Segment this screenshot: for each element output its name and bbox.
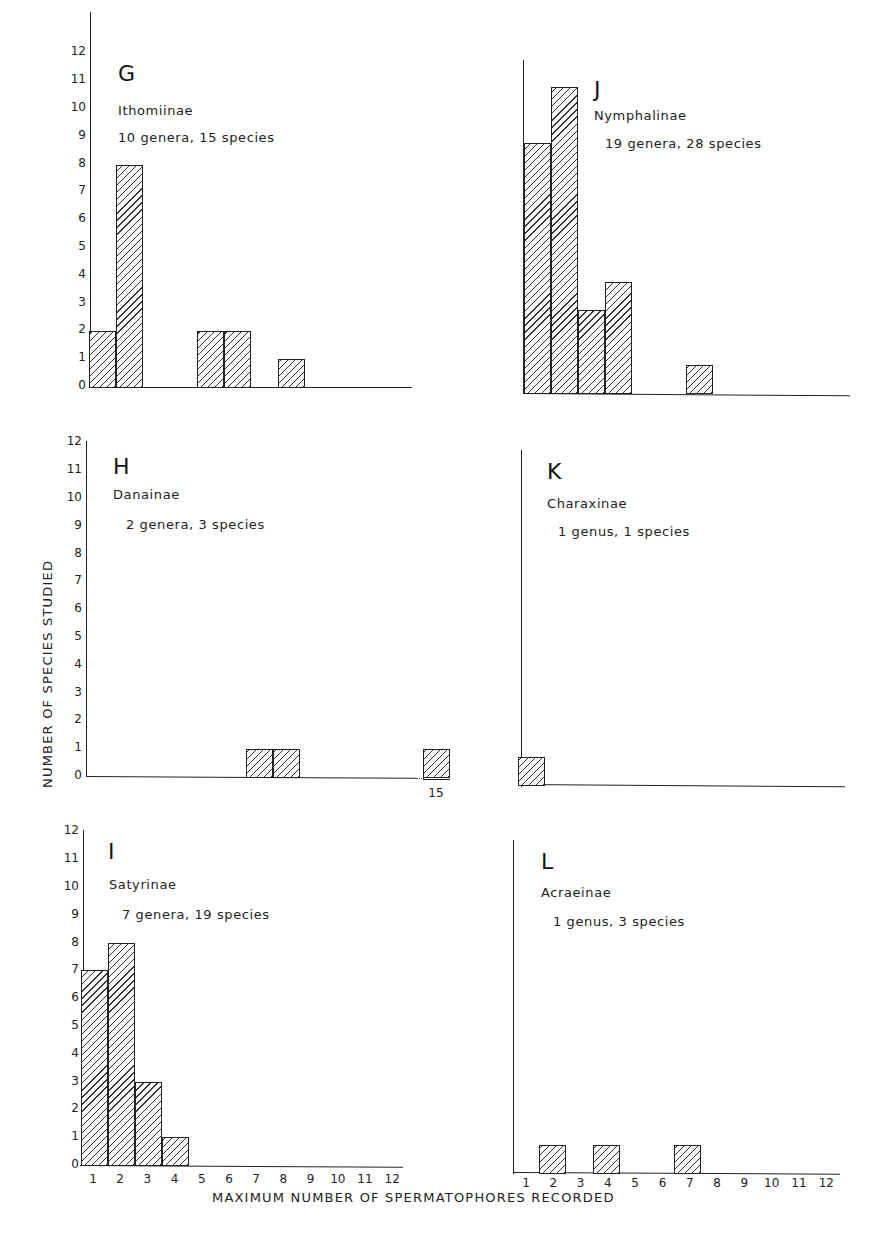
y-tick: 0 [64,378,86,392]
y-tick: 7 [60,573,82,587]
x-tick: 1 [83,1172,103,1186]
panel-h-x-axis-extension [423,779,450,780]
y-tick: 12 [64,44,86,58]
histogram-bar [162,1137,189,1166]
x-tick: 7 [680,1176,700,1190]
y-tick: 4 [57,1046,79,1060]
y-tick: 2 [60,712,82,726]
panel-j-subfamily: Nymphalinae [594,108,687,124]
y-tick: 1 [57,1129,79,1143]
histogram-bar [539,1145,566,1174]
panel-l-letter: L [541,850,553,874]
panel-l-subfamily: Acraeinae [541,885,611,901]
x-tick: 8 [707,1176,727,1190]
histogram-bar [518,757,545,786]
histogram-bar [551,87,578,394]
histogram-bar [81,970,108,1166]
histogram-bar [246,749,273,778]
x-tick: 4 [165,1172,185,1186]
y-tick: 5 [60,629,82,643]
y-tick: 8 [57,935,79,949]
panel-g-letter: G [118,62,135,86]
panel-j-counts: 19 genera, 28 species [605,136,762,152]
x-tick: 3 [137,1172,157,1186]
panel-j-letter: J [594,78,601,102]
y-tick: 9 [60,518,82,532]
y-tick: 5 [64,239,86,253]
panel-l-counts: 1 genus, 3 species [553,914,685,930]
y-axis-label: NUMBER OF SPECIES STUDIED [40,560,55,788]
x-tick: 2 [543,1176,563,1190]
histogram-bar [135,1082,162,1166]
panel-g-subfamily: Ithomiinae [118,103,193,119]
y-tick: 12 [57,823,79,837]
histogram-bar [89,331,116,388]
x-tick: 9 [734,1176,754,1190]
y-tick: 11 [57,851,79,865]
y-tick: 12 [60,434,82,448]
x-tick: 10 [762,1176,782,1190]
panel-h-break-tick: 15 [426,786,446,800]
panel-i-letter: I [108,840,115,864]
y-tick: 3 [57,1074,79,1088]
y-tick: 1 [64,350,86,364]
x-tick: 1 [516,1176,536,1190]
x-tick: 2 [110,1172,130,1186]
x-axis-label: MAXIMUM NUMBER OF SPERMATOPHORES RECORDE… [212,1190,615,1205]
y-tick: 2 [57,1101,79,1115]
histogram-bar [578,310,605,394]
y-tick: 4 [64,267,86,281]
x-tick: 12 [382,1172,402,1186]
panel-k-y-axis [521,450,522,787]
histogram-bar [686,365,713,394]
y-tick: 3 [64,295,86,309]
panel-k-subfamily: Charaxinae [547,496,627,512]
y-tick: 9 [64,128,86,142]
y-tick: 6 [57,990,79,1004]
y-tick: 8 [64,156,86,170]
panel-l-y-axis [513,840,514,1174]
y-tick: 8 [60,546,82,560]
y-tick: 9 [57,907,79,921]
histogram-bar [674,1145,701,1174]
histogram-bar [524,143,551,394]
x-tick: 5 [192,1172,212,1186]
histogram-bar [108,943,135,1166]
x-tick: 9 [301,1172,321,1186]
histogram-bar [273,749,300,778]
x-tick: 11 [355,1172,375,1186]
y-tick: 11 [60,462,82,476]
y-tick: 6 [64,211,86,225]
x-tick: 3 [571,1176,591,1190]
y-tick: 5 [57,1018,79,1032]
panel-h-letter: H [113,455,130,479]
panel-i-subfamily: Satyrinae [109,877,177,893]
x-tick: 7 [246,1172,266,1186]
histogram-bar [423,749,450,778]
y-tick: 3 [60,685,82,699]
y-tick: 1 [60,740,82,754]
x-tick: 10 [328,1172,348,1186]
histogram-bar [605,282,632,394]
panel-k-letter: K [547,460,561,484]
y-tick: 0 [60,768,82,782]
y-tick: 4 [60,657,82,671]
histogram-bar [278,359,305,388]
x-tick: 8 [273,1172,293,1186]
y-tick: 10 [57,879,79,893]
histogram-bar [197,331,224,388]
y-tick: 10 [64,100,86,114]
x-tick: 6 [219,1172,239,1186]
histogram-bar [116,165,143,388]
x-tick: 4 [598,1176,618,1190]
histogram-bar [593,1145,620,1174]
panel-k-counts: 1 genus, 1 species [558,524,690,540]
panel-h-y-axis [86,441,87,777]
panel-i-counts: 7 genera, 19 species [122,907,270,923]
y-tick: 2 [64,322,86,336]
y-tick: 6 [60,601,82,615]
histogram-bar [224,331,251,388]
y-tick: 11 [64,72,86,86]
x-tick: 6 [653,1176,673,1190]
y-tick: 7 [57,962,79,976]
